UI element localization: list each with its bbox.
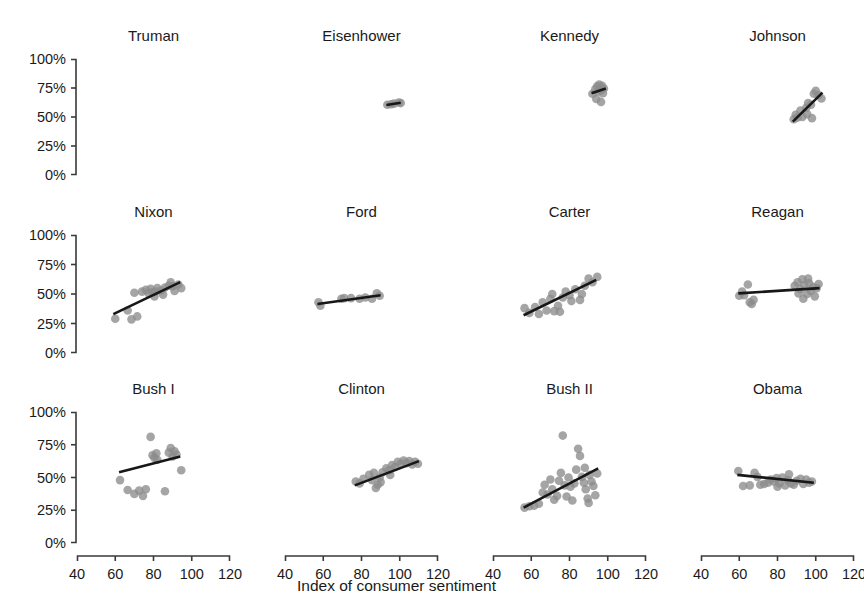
panel-title-obama: Obama <box>701 380 854 397</box>
data-point <box>597 98 606 107</box>
y-tick-label: 100% <box>29 51 66 67</box>
facet-panel-truman: Truman0%25%50%75%100% <box>17 19 240 205</box>
facet-panel-obama: Obama406080100120 <box>641 372 864 573</box>
data-point <box>572 465 581 474</box>
panel-title-bush-i: Bush I <box>77 380 230 397</box>
facet-panel-johnson: Johnson <box>641 19 864 205</box>
data-point <box>744 280 753 289</box>
data-point <box>161 487 170 496</box>
x-tick-label: 100 <box>804 566 828 582</box>
data-point <box>146 433 155 442</box>
data-point <box>576 452 585 461</box>
data-point <box>568 496 577 505</box>
data-point <box>142 485 151 494</box>
panel-title-reagan: Reagan <box>701 203 854 220</box>
panel-title-eisenhower: Eisenhower <box>285 27 438 44</box>
panel-title-johnson: Johnson <box>701 27 854 44</box>
y-tick-label: 100% <box>29 227 66 243</box>
y-tick-label: 0% <box>45 535 66 551</box>
data-point <box>773 482 782 491</box>
data-point <box>567 297 576 306</box>
data-point <box>808 114 817 123</box>
x-axis-title: Index of consumer sentiment <box>0 577 793 595</box>
y-tick-label: 25% <box>37 138 66 154</box>
data-point <box>133 312 142 321</box>
y-tick-label: 25% <box>37 502 66 518</box>
data-point <box>810 292 819 301</box>
data-point <box>376 478 385 487</box>
data-point <box>535 310 544 319</box>
y-tick-label: 75% <box>37 80 66 96</box>
data-point <box>548 290 557 299</box>
panel-title-bush-ii: Bush II <box>493 380 646 397</box>
panel-title-kennedy: Kennedy <box>493 27 646 44</box>
panel-title-truman: Truman <box>77 27 230 44</box>
data-point <box>559 431 568 440</box>
y-tick-label: 100% <box>29 404 66 420</box>
y-tick-label: 25% <box>37 316 66 332</box>
panel-title-carter: Carter <box>493 203 646 220</box>
facet-panel-kennedy: Kennedy <box>433 19 656 205</box>
facet-panel-reagan: Reagan <box>641 195 864 383</box>
data-point <box>584 499 593 508</box>
data-point <box>542 306 551 315</box>
data-point <box>785 470 794 479</box>
y-tick-label: 0% <box>45 345 66 361</box>
y-tick-label: 75% <box>37 437 66 453</box>
data-point <box>591 491 600 500</box>
data-point <box>749 296 758 305</box>
y-tick-label: 75% <box>37 257 66 273</box>
data-point <box>578 290 587 299</box>
trend-line <box>119 457 180 473</box>
data-point <box>804 274 813 283</box>
data-point <box>546 475 555 484</box>
data-point <box>116 476 125 485</box>
data-point <box>745 481 754 490</box>
data-point <box>177 284 186 293</box>
data-point <box>581 463 590 472</box>
data-point <box>581 485 590 494</box>
data-point <box>574 444 583 453</box>
data-point <box>557 469 566 478</box>
x-tick-label: 120 <box>842 566 864 582</box>
data-point <box>111 314 120 323</box>
y-tick-label: 50% <box>37 470 66 486</box>
facet-panel-eisenhower: Eisenhower <box>225 19 448 205</box>
panel-title-ford: Ford <box>285 203 438 220</box>
data-point <box>589 482 598 491</box>
facet-panel-bush-ii: Bush II406080100120 <box>433 372 656 573</box>
facet-panel-clinton: Clinton406080100120 <box>225 372 448 573</box>
facet-panel-carter: Carter <box>433 195 656 383</box>
y-tick-label: 0% <box>45 167 66 183</box>
y-tick-label: 50% <box>37 286 66 302</box>
data-point <box>177 466 186 475</box>
data-point <box>556 307 565 316</box>
facet-panel-ford: Ford <box>225 195 448 383</box>
facet-panel-bush-i: Bush I0%25%50%75%100%406080100120 <box>17 372 240 573</box>
data-point <box>130 289 139 298</box>
facet-panel-nixon: Nixon0%25%50%75%100% <box>17 195 240 383</box>
panel-title-clinton: Clinton <box>285 380 438 397</box>
panel-title-nixon: Nixon <box>77 203 230 220</box>
y-tick-label: 50% <box>37 109 66 125</box>
